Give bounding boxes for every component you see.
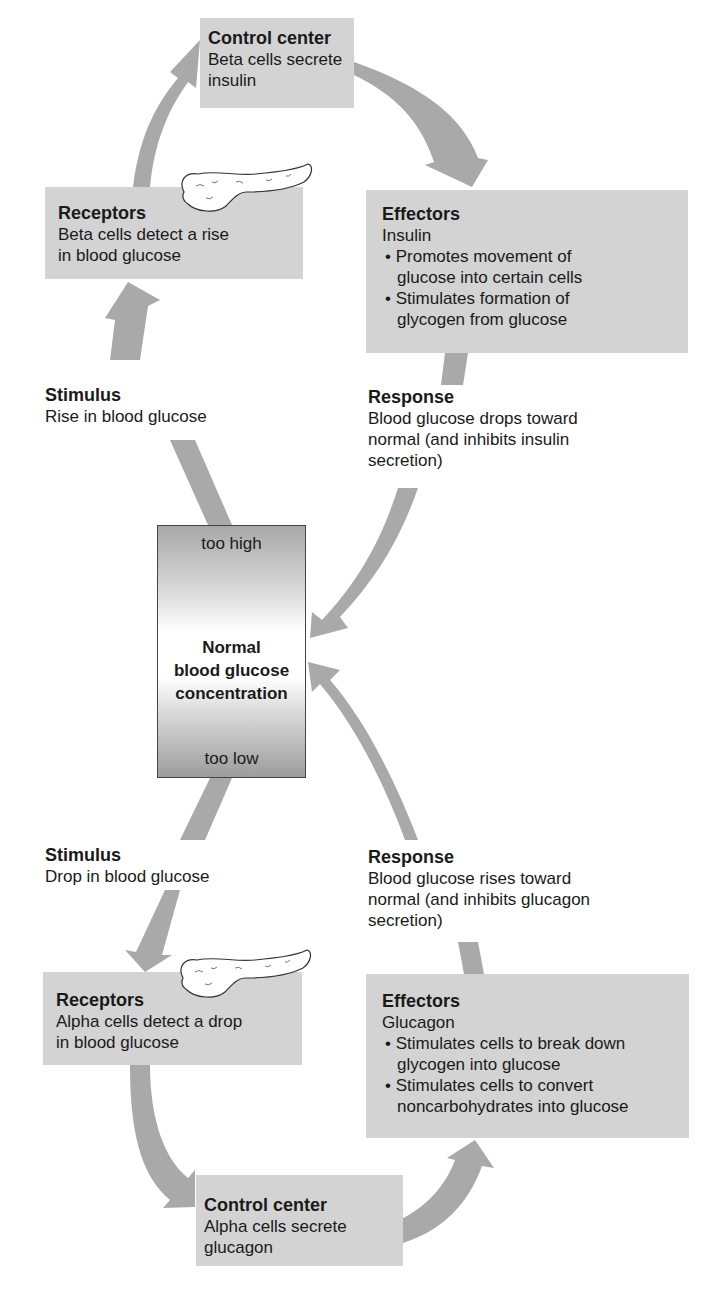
effectors-bottom-box: Effectors Glucagon • Stimulates cells to… — [366, 974, 689, 1138]
control-center-top-title: Control center — [208, 28, 354, 49]
stimulus-bottom-title: Stimulus — [45, 845, 209, 866]
effectors-bottom-bullet-1: • Stimulates cells to break down glycoge… — [382, 1033, 697, 1075]
pancreas-icon — [175, 948, 315, 1004]
too-low-label: too low — [158, 749, 305, 769]
stimulus-top-label: Stimulus Rise in blood glucose — [45, 385, 207, 427]
receptors-bottom-text-2: in blood glucose — [56, 1032, 302, 1053]
response-top-text-1: Blood glucose drops toward — [368, 408, 578, 429]
response-bottom-text-1: Blood glucose rises toward — [368, 868, 590, 889]
normal-glucose-line-3: concentration — [158, 682, 305, 705]
pancreas-icon — [176, 162, 316, 218]
stimulus-bottom-text: Drop in blood glucose — [45, 866, 209, 887]
arrow-control-to-effectors-bottom — [403, 1140, 494, 1243]
effectors-bottom-bullet-2: • Stimulates cells to convert noncarbohy… — [382, 1075, 697, 1117]
response-bottom-title: Response — [368, 847, 590, 868]
arrow-center-to-stimulus-top — [170, 440, 232, 525]
control-center-top-box: Control center Beta cells secrete insuli… — [200, 18, 354, 108]
arrow-stimulus-to-receptors-bottom — [125, 890, 180, 972]
control-center-bottom-text-1: Alpha cells secrete — [204, 1216, 403, 1237]
stimulus-bottom-label: Stimulus Drop in blood glucose — [45, 845, 209, 887]
response-top-text-3: secretion) — [368, 450, 578, 471]
control-center-bottom-title: Control center — [204, 1195, 403, 1216]
response-bottom-label: Response Blood glucose rises toward norm… — [368, 847, 590, 931]
receptors-bottom-text-1: Alpha cells detect a drop — [56, 1011, 302, 1032]
response-bottom-text-3: secretion) — [368, 910, 590, 931]
response-bottom-text-2: normal (and inhibits glucagon — [368, 889, 590, 910]
line-effectors-to-response-top — [441, 353, 468, 385]
effectors-top-title: Effectors — [382, 204, 688, 225]
control-center-top-text-1: Beta cells secrete — [208, 49, 354, 70]
control-center-bottom-box: Control center Alpha cells secrete gluca… — [196, 1175, 403, 1266]
effectors-top-subtitle: Insulin — [382, 225, 688, 246]
effectors-bottom-title: Effectors — [382, 991, 689, 1012]
effectors-bottom-subtitle: Glucagon — [382, 1012, 689, 1033]
arrow-response-to-center-top — [310, 488, 418, 638]
arrow-response-to-center-bottom — [308, 662, 440, 840]
response-top-title: Response — [368, 387, 578, 408]
too-high-label: too high — [158, 534, 305, 554]
receptors-top-text-1: Beta cells detect a rise — [58, 224, 303, 245]
stimulus-top-text: Rise in blood glucose — [45, 406, 207, 427]
response-top-label: Response Blood glucose drops toward norm… — [368, 387, 578, 471]
effectors-top-bullet-2: • Stimulates formation of glycogen from … — [382, 288, 622, 330]
arrow-control-to-effectors-top — [354, 62, 488, 187]
arrow-receptors-to-control-bottom — [130, 1065, 195, 1208]
response-top-text-2: normal (and inhibits insulin — [368, 429, 578, 450]
effectors-top-box: Effectors Insulin • Promotes movement of… — [366, 190, 688, 353]
arrow-stimulus-to-receptors-top — [105, 282, 160, 360]
line-center-to-stimulus-bottom — [180, 778, 232, 840]
control-center-bottom-text-2: glucagon — [204, 1237, 403, 1258]
effectors-top-bullet-1: • Promotes movement of glucose into cert… — [382, 246, 622, 288]
arrow-effectors-to-response-bottom — [458, 942, 484, 974]
control-center-top-text-2: insulin — [208, 70, 354, 91]
normal-glucose-line-2: blood glucose — [158, 659, 305, 682]
stimulus-top-title: Stimulus — [45, 385, 207, 406]
normal-glucose-label: Normal blood glucose concentration — [158, 636, 305, 705]
normal-glucose-line-1: Normal — [158, 636, 305, 659]
receptors-top-text-2: in blood glucose — [58, 245, 303, 266]
normal-glucose-box: too high Normal blood glucose concentrat… — [157, 525, 306, 778]
